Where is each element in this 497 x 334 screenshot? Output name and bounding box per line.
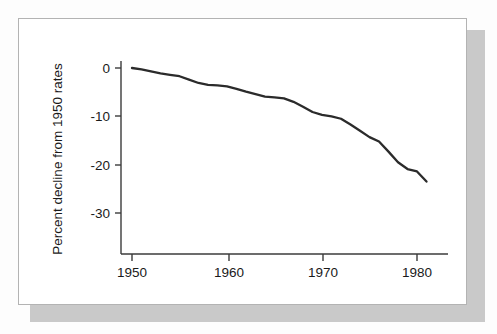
x-tick-label-1950: 1950 — [117, 265, 147, 280]
y-tick-label-0: 0 — [102, 61, 110, 76]
y-tick-label-minus10: -10 — [90, 109, 110, 124]
data-series-line — [132, 68, 427, 182]
x-axis-ticks — [132, 254, 417, 261]
x-tick-label-1960: 1960 — [214, 265, 244, 280]
y-tick-label-minus30: -30 — [90, 206, 110, 221]
y-axis-title: Percent decline from 1950 rates — [50, 63, 65, 255]
line-chart: 0 -10 -20 -30 1950 1960 1970 1980 Percen… — [19, 19, 468, 306]
y-tick-label-minus20: -20 — [90, 158, 110, 173]
y-axis-ticks — [115, 68, 121, 213]
figure-frame: 0 -10 -20 -30 1950 1960 1970 1980 Percen… — [18, 18, 467, 305]
x-tick-label-1970: 1970 — [308, 265, 338, 280]
scanned-page-background: 0 -10 -20 -30 1950 1960 1970 1980 Percen… — [0, 0, 497, 334]
chart-plot-area: 0 -10 -20 -30 1950 1960 1970 1980 Percen… — [19, 19, 468, 306]
x-tick-label-1980: 1980 — [402, 265, 432, 280]
